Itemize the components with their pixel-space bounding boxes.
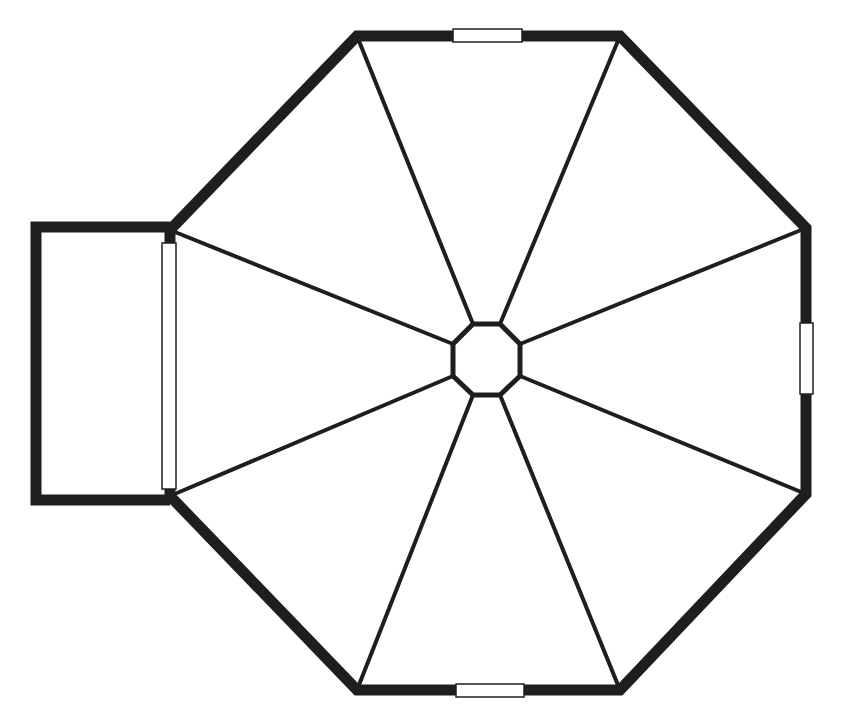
beam-6 [170,376,453,496]
beam-0 [357,36,473,324]
beam-4 [500,395,620,690]
beam-1 [500,36,620,324]
beam-3 [520,376,806,494]
left-annex-walls [36,227,170,500]
top-window [453,29,522,42]
right-window [800,323,813,394]
beam-7 [170,230,453,344]
beam-5 [357,395,473,690]
center-octagon [453,324,520,395]
beam-2 [520,228,806,344]
left-annex-window [162,243,176,489]
bottom-window [456,684,524,697]
floor-plan [0,0,841,724]
